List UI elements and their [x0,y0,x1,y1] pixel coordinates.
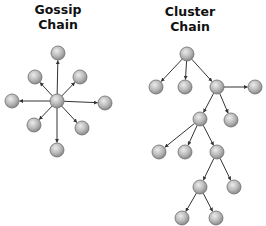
edge-arrow [188,125,197,145]
node-circle-icon [180,47,194,61]
node-circle-icon [28,70,42,84]
node-circle-icon [178,80,192,94]
edge-arrow [204,93,214,112]
edge-arrow [203,125,213,145]
edge-arrow [165,123,195,147]
gossip-chain-diagram [5,46,112,157]
edge-arrow [220,158,231,180]
node-circle-icon [178,145,192,159]
node-circle-icon [210,80,224,94]
edge-arrow [203,193,212,211]
edge-arrow [39,106,52,120]
node-circle-icon [75,121,89,135]
node-circle-icon [209,211,223,225]
node-circle-icon [73,70,87,84]
edge-arrow [40,83,52,96]
edge-arrow [203,158,214,180]
node-circle-icon [98,96,112,110]
node-circle-icon [193,112,207,126]
edge-arrow [220,93,228,113]
node-circle-icon [50,94,64,108]
edge-arrow [186,193,197,211]
edge-arrow [192,59,212,81]
edge-arrow [62,82,75,96]
node-circle-icon [152,145,166,159]
node-circle-icon [27,118,41,132]
edge-arrow [185,61,186,80]
node-circle-icon [51,46,65,60]
node-circle-icon [248,80,262,94]
edge-arrow [62,106,77,122]
node-circle-icon [149,80,163,94]
node-circle-icon [210,145,224,159]
node-circle-icon [224,113,238,127]
node-circle-icon [175,211,189,225]
edge-arrow [57,60,58,94]
node-circle-icon [227,180,241,194]
edge-arrow [161,59,182,81]
cluster-chain-diagram [149,47,262,225]
node-circle-icon [50,143,64,157]
node-circle-icon [5,94,19,108]
network-diagram-canvas [0,0,266,226]
node-circle-icon [193,180,207,194]
edge-arrow [64,101,98,102]
